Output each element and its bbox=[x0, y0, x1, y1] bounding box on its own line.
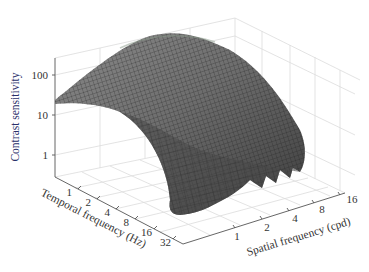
temporal-tick-2: 2 bbox=[86, 196, 92, 208]
z-tick-labels: 100 10 1 bbox=[32, 69, 49, 161]
spatial-tick-2: 2 bbox=[264, 221, 270, 233]
z-tick-100: 100 bbox=[32, 69, 49, 81]
surface-plot: 100 10 1 1 2 4 8 16 32 1 2 4 8 16 Contra… bbox=[0, 0, 369, 272]
temporal-tick-32: 32 bbox=[160, 236, 171, 248]
spatial-axis-label: Spatial frequency (cpd) bbox=[245, 215, 352, 259]
spatial-tick-1: 1 bbox=[234, 230, 240, 242]
z-tick-10: 10 bbox=[37, 109, 49, 121]
spatial-tick-4: 4 bbox=[292, 212, 298, 224]
temporal-axis-label: Temporal frequency (Hz) bbox=[39, 186, 149, 251]
z-axis-label: Contrast sensitivity bbox=[9, 72, 22, 161]
z-tick-1: 1 bbox=[43, 149, 49, 161]
spatial-tick-8: 8 bbox=[319, 203, 325, 215]
temporal-tick-1: 1 bbox=[67, 186, 73, 198]
spatial-tick-16: 16 bbox=[347, 193, 359, 205]
